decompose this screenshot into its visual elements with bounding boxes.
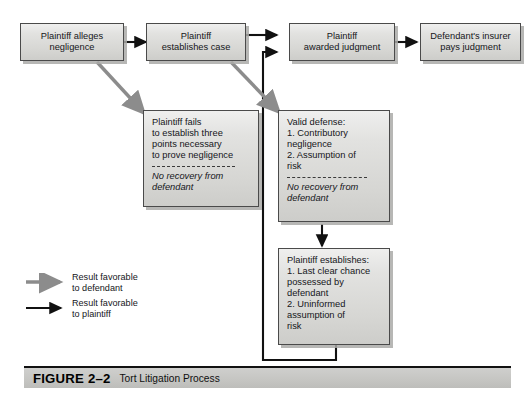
node-valid-defense[interactable]: Valid defense: 1. Contributory negligenc…	[278, 110, 390, 222]
node-label: Plaintiff awarded judgment	[304, 31, 381, 53]
node-plaintiff-fails-to-establish[interactable]: Plaintiff fails to establish three point…	[143, 110, 259, 207]
gray-arrow-icon	[24, 273, 70, 295]
node-label: Plaintiff establishes case	[162, 31, 231, 53]
figure-number: FIGURE 2–2	[33, 371, 111, 386]
legend-item-plaintiff: Result favorable to plaintiff	[24, 298, 204, 321]
node-body: Valid defense: 1. Contributory negligenc…	[287, 117, 356, 172]
black-arrow-icon	[24, 299, 70, 321]
node-defendant-insurer-pays-judgment[interactable]: Defendant's insurer pays judgment	[420, 23, 521, 61]
node-plaintiff-alleges-negligence[interactable]: Plaintiff alleges negligence	[20, 23, 124, 61]
figure-tort-litigation-process: Plaintiff alleges negligence Plaintiff e…	[0, 0, 529, 399]
figure-caption-bar: FIGURE 2–2 Tort Litigation Process	[24, 366, 511, 388]
node-plaintiff-awarded-judgment[interactable]: Plaintiff awarded judgment	[289, 23, 395, 61]
legend-item-defendant: Result favorable to defendant	[24, 272, 204, 295]
legend-label-defendant: Result favorable to defendant	[70, 272, 138, 294]
node-label: Plaintiff alleges negligence	[41, 31, 103, 53]
node-note: No recovery from defendant	[287, 182, 358, 205]
arrow-alleges-to-fails	[97, 62, 144, 113]
node-body: Plaintiff fails to establish three point…	[152, 117, 233, 161]
node-plaintiff-establishes-case[interactable]: Plaintiff establishes case	[146, 23, 246, 61]
node-divider	[152, 166, 235, 167]
figure-title: Tort Litigation Process	[120, 373, 220, 384]
node-label: Defendant's insurer pays judgment	[430, 31, 510, 53]
node-plaintiff-establishes-defenses[interactable]: Plaintiff establishes: 1. Last clear cha…	[278, 248, 390, 345]
node-note: No recovery from defendant	[152, 171, 223, 194]
node-divider	[287, 177, 367, 178]
legend-label-plaintiff: Result favorable to plaintiff	[70, 298, 138, 320]
node-body: Plaintiff establishes: 1. Last clear cha…	[287, 255, 370, 332]
legend: Result favorable to defendant Result fav…	[24, 272, 204, 324]
arrow-establishes-to-defense	[231, 62, 279, 112]
